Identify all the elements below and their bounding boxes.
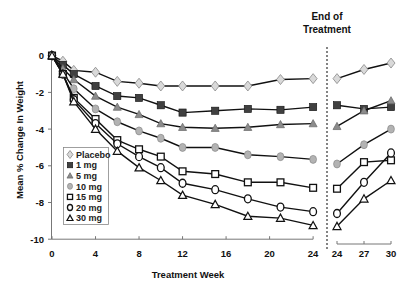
end-of-treatment-label-line1: End of [311, 11, 343, 22]
diamond-marker-icon [135, 78, 143, 88]
open-circle-marker-icon [388, 149, 395, 157]
open-circle-marker-icon [244, 195, 251, 203]
diamond-marker-icon [387, 58, 395, 68]
square-marker-icon [179, 109, 186, 116]
eot-x-tick-label: 27 [359, 248, 370, 259]
open-circle-marker-icon [179, 179, 186, 187]
x-tick-label: 20 [264, 248, 275, 259]
circle-marker-icon [310, 155, 317, 163]
legend-label: Placebo [76, 150, 111, 160]
open-square-marker-icon [179, 168, 186, 175]
open-square-marker-icon [334, 185, 341, 192]
eot-x-tick-label: 30 [386, 248, 397, 259]
open-triangle-marker-icon [360, 195, 368, 202]
open-square-marker-icon [310, 184, 317, 191]
square-marker-icon [387, 103, 394, 110]
eot-x-tick-label: 24 [332, 248, 343, 259]
circle-marker-icon [334, 160, 341, 168]
legend: Placebo1 mg5 mg10 mg15 mg20 mg30 mg [64, 148, 112, 225]
square-marker-icon [67, 162, 72, 167]
open-circle-marker-icon [212, 186, 219, 194]
diamond-marker-icon [333, 74, 341, 84]
square-marker-icon [333, 102, 340, 109]
diamond-marker-icon [92, 67, 100, 77]
circle-marker-icon [67, 183, 72, 189]
open-square-marker-icon [244, 179, 251, 186]
x-tick-label: 12 [177, 248, 188, 259]
circle-marker-icon [157, 134, 164, 142]
circle-marker-icon [179, 143, 186, 151]
triangle-marker-icon [157, 120, 165, 127]
x-tick-label: 0 [49, 248, 54, 259]
legend-label: 15 mg [76, 192, 102, 202]
end-of-treatment-label-line2: Treatment [303, 24, 351, 35]
square-marker-icon [244, 105, 251, 112]
y-tick-label: -10 [30, 234, 44, 245]
square-marker-icon [135, 94, 142, 101]
open-square-marker-icon [157, 153, 164, 160]
y-tick-label: -4 [36, 124, 45, 135]
circle-marker-icon [136, 127, 143, 135]
diamond-marker-icon [157, 81, 165, 91]
diamond-marker-icon [309, 74, 317, 84]
circle-marker-icon [212, 143, 219, 151]
series-placebo [48, 51, 395, 91]
y-axis-title: Mean % Change In Weight [14, 80, 25, 199]
circle-marker-icon [114, 118, 121, 126]
open-circle-marker-icon [361, 178, 368, 186]
open-square-marker-icon [361, 159, 368, 166]
open-square-marker-icon [67, 194, 72, 199]
diamond-marker-icon [360, 64, 368, 74]
legend-label: 10 mg [76, 182, 102, 192]
open-circle-marker-icon [310, 208, 317, 216]
series-line [52, 56, 313, 128]
triangle-marker-icon [333, 122, 341, 129]
square-marker-icon [92, 82, 99, 89]
open-square-marker-icon [212, 171, 219, 178]
triangle-marker-icon [113, 103, 121, 110]
y-tick-label: -8 [36, 197, 44, 208]
circle-marker-icon [244, 151, 251, 159]
open-circle-marker-icon [334, 210, 341, 218]
diamond-marker-icon [244, 81, 252, 91]
open-triangle-marker-icon [157, 176, 165, 183]
open-square-marker-icon [388, 157, 395, 164]
y-tick-label: -2 [36, 87, 44, 98]
open-circle-marker-icon [67, 205, 72, 211]
weight-change-chart: 0-2-4-6-8-1004812162024242730 Placebo1 m… [0, 0, 413, 297]
circle-marker-icon [361, 141, 368, 149]
diamond-marker-icon [179, 81, 187, 91]
legend-label: 1 mg [76, 160, 97, 170]
open-circle-marker-icon [157, 164, 164, 172]
open-circle-marker-icon [277, 203, 284, 211]
diamond-marker-icon [113, 76, 121, 86]
y-tick-label: 0 [39, 50, 44, 61]
x-tick-label: 16 [221, 248, 232, 259]
open-triangle-marker-icon [179, 191, 187, 198]
square-marker-icon [310, 103, 317, 110]
circle-marker-icon [92, 105, 99, 113]
x-tick-label: 8 [136, 248, 141, 259]
circle-marker-icon [277, 153, 284, 161]
diamond-marker-icon [276, 75, 284, 85]
x-tick-label: 4 [93, 248, 99, 259]
open-circle-marker-icon [136, 153, 143, 161]
square-marker-icon [212, 107, 219, 114]
diamond-marker-icon [211, 81, 219, 91]
legend-label: 20 mg [76, 203, 102, 213]
open-triangle-marker-icon [387, 176, 395, 183]
y-tick-label: -6 [36, 160, 44, 171]
x-axis-title: Treatment Week [152, 269, 225, 280]
square-marker-icon [114, 92, 121, 99]
square-marker-icon [277, 106, 284, 113]
open-square-marker-icon [136, 146, 143, 153]
open-square-marker-icon [277, 179, 284, 186]
circle-marker-icon [388, 125, 395, 133]
series-5-mg [48, 52, 395, 132]
series-1-mg [48, 52, 394, 116]
square-marker-icon [157, 102, 164, 109]
legend-label: 5 mg [76, 171, 97, 181]
legend-label: 30 mg [76, 213, 102, 223]
triangle-marker-icon [387, 97, 395, 104]
x-tick-label: 24 [308, 248, 319, 259]
